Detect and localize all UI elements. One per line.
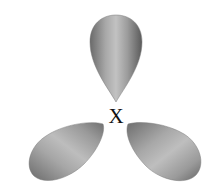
lower-left-lobe bbox=[29, 123, 104, 181]
center-atom-label: X bbox=[106, 105, 126, 127]
lower-right-lobe bbox=[127, 122, 201, 180]
orbital-diagram bbox=[0, 0, 210, 195]
top-lobe bbox=[90, 15, 142, 102]
